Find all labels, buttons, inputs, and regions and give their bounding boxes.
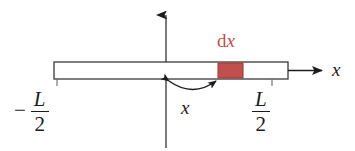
rod-body (54, 62, 288, 79)
element-label-dx: dx (217, 31, 235, 50)
element-variable: x (227, 30, 235, 51)
right-end-denominator: 2 (252, 112, 270, 135)
right-end-numerator: L (252, 88, 270, 112)
left-end-denominator: 2 (31, 112, 49, 135)
axis-label-x: x (332, 60, 340, 79)
left-end-fraction: L 2 (31, 88, 49, 135)
right-end-label: L 2 (252, 88, 270, 135)
diagram-canvas (0, 0, 355, 151)
left-end-label: − L 2 (14, 88, 49, 135)
right-end-fraction: L 2 (252, 88, 270, 135)
distance-label-x: x (181, 98, 189, 117)
left-end-numerator: L (31, 88, 49, 112)
minus-sign: − (14, 100, 31, 121)
physics-rod-diagram: − L 2 L 2 dx x x (0, 0, 355, 151)
element-prefix: d (217, 30, 227, 51)
distance-arc (169, 81, 216, 90)
differential-element (218, 63, 243, 78)
